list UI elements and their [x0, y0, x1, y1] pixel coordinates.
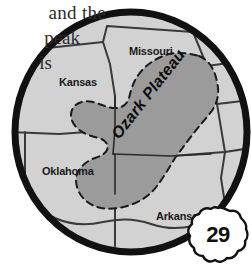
- state-label-oklahoma: Oklahoma: [42, 165, 94, 177]
- state-label-kansas: Kansas: [59, 76, 97, 88]
- page-number-badge: 29: [187, 206, 249, 264]
- page-number-text: 29: [187, 206, 249, 264]
